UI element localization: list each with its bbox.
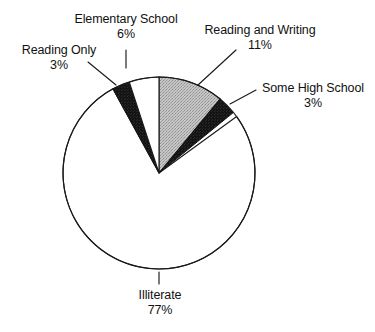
slice-label-elementary-school-percent: 6% — [60, 27, 192, 42]
slice-label-reading-only: Reading Only 3% — [3, 43, 115, 72]
leader-line-reading-and-writing — [198, 50, 236, 85]
slice-label-elementary-school-name: Elementary School — [74, 12, 177, 26]
slice-label-some-high-school-name: Some High School — [262, 81, 364, 95]
pie-slices — [63, 77, 255, 269]
slice-label-illiterate-percent: 77% — [96, 303, 224, 318]
slice-label-reading-and-writing: Reading and Writing 11% — [196, 23, 324, 52]
slice-label-elementary-school: Elementary School 6% — [60, 12, 192, 41]
slice-label-reading-only-name: Reading Only — [22, 43, 97, 57]
slice-label-reading-and-writing-percent: 11% — [196, 38, 324, 53]
slice-label-some-high-school-percent: 3% — [252, 96, 374, 111]
slice-label-illiterate: Illiterate 77% — [96, 288, 224, 317]
slice-label-illiterate-name: Illiterate — [139, 288, 182, 302]
slice-label-reading-and-writing-name: Reading and Writing — [204, 23, 315, 37]
slice-label-reading-only-percent: 3% — [3, 58, 115, 73]
pie-chart-figure: Elementary School 6% Reading Only 3% Rea… — [0, 0, 375, 332]
slice-label-some-high-school: Some High School 3% — [252, 81, 374, 110]
